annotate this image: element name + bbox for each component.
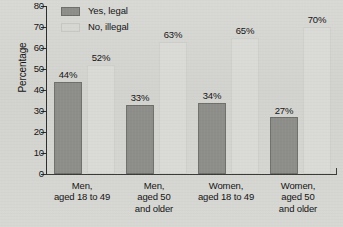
y-axis-title: Percentage [17, 25, 28, 111]
x-category-line: Women, [190, 180, 262, 191]
legend-label-yes-legal: Yes, legal [88, 6, 128, 16]
x-category-line: Men, [46, 180, 118, 191]
bar-group-women-50-older: 27% 70% [262, 6, 334, 174]
x-category-line: and older [262, 203, 334, 214]
bar-value-yes-women-18-49: 34% [194, 91, 230, 101]
bar-no-illegal-women-18-49[interactable] [231, 38, 259, 175]
bar-yes-legal-women-18-49[interactable] [198, 103, 226, 174]
bar-value-no-women-50-older: 70% [299, 15, 335, 25]
legend-swatch-icon-yes-legal [61, 7, 80, 16]
y-tick-label-50: 50 [34, 64, 44, 74]
bar-value-yes-men-18-49: 44% [50, 70, 86, 80]
x-category-line: aged 50 [262, 191, 334, 202]
x-axis-endcap [336, 168, 337, 175]
x-category-line: aged 18 to 49 [46, 191, 118, 202]
x-category-label-women-18-49: Women, aged 18 to 49 [190, 180, 262, 203]
bar-value-no-men-18-49: 52% [83, 53, 119, 63]
bar-value-yes-women-50-older: 27% [266, 106, 302, 116]
x-category-line: Men, [118, 180, 190, 191]
x-category-line: Women, [262, 180, 334, 191]
legend-swatch-icon-no-illegal [61, 23, 80, 32]
x-category-line: and older [118, 203, 190, 214]
x-category-label-women-50-older: Women, aged 50 and older [262, 180, 334, 214]
y-tick-label-10: 10 [34, 148, 44, 158]
y-tick-label-20: 20 [34, 127, 44, 137]
chart-legend: Yes, legal No, illegal [61, 4, 129, 36]
y-tick-label-0: 0 [39, 169, 44, 179]
x-category-label-men-50-older: Men, aged 50 and older [118, 180, 190, 214]
legend-item-no-illegal[interactable]: No, illegal [61, 20, 129, 34]
x-category-line: aged 50 [118, 191, 190, 202]
bar-yes-legal-women-50-older[interactable] [270, 117, 298, 174]
y-tick-label-80: 80 [34, 1, 44, 11]
bar-no-illegal-men-18-49[interactable] [87, 65, 115, 174]
bar-group-men-50-older: 33% 63% [118, 6, 190, 174]
legend-label-no-illegal: No, illegal [88, 22, 129, 32]
y-tick-label-40: 40 [34, 85, 44, 95]
bar-no-illegal-men-50-older[interactable] [159, 42, 187, 174]
bar-group-women-18-49: 34% 65% [190, 6, 262, 174]
bar-yes-legal-men-18-49[interactable] [54, 82, 82, 174]
legend-item-yes-legal[interactable]: Yes, legal [61, 4, 129, 18]
bar-value-no-women-18-49: 65% [227, 26, 263, 36]
bar-chart: Percentage 80 70 60 50 40 30 20 10 0 44%… [0, 0, 343, 227]
x-category-label-men-18-49: Men, aged 18 to 49 [46, 180, 118, 203]
x-category-line: aged 18 to 49 [190, 191, 262, 202]
bar-value-no-men-50-older: 63% [155, 30, 191, 40]
bar-no-illegal-women-50-older[interactable] [303, 27, 331, 174]
y-tick-label-70: 70 [34, 22, 44, 32]
bar-yes-legal-men-50-older[interactable] [126, 105, 154, 174]
y-tick-label-30: 30 [34, 106, 44, 116]
x-axis-line [46, 174, 337, 175]
bar-value-yes-men-50-older: 33% [122, 93, 158, 103]
y-tick-label-60: 60 [34, 43, 44, 53]
